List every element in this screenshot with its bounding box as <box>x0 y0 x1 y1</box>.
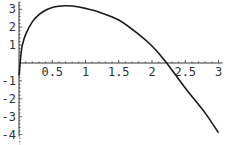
x-tick-label: 2 <box>148 65 155 79</box>
y-tick-label: 1 <box>9 38 16 52</box>
tick-labels: 0.511.522.53321-1-2-3-4 <box>2 2 223 141</box>
y-tick-label: 3 <box>9 2 16 16</box>
y-tick-label: -4 <box>2 128 16 142</box>
plot-area: 0.511.522.53321-1-2-3-4 <box>0 0 227 145</box>
y-tick-label: -1 <box>2 74 16 88</box>
x-tick-label: 3 <box>215 65 222 79</box>
x-tick-label: 1 <box>82 65 89 79</box>
x-tick-label: 0.5 <box>41 65 63 79</box>
y-tick-label: 2 <box>9 20 16 34</box>
y-tick-label: -2 <box>2 92 16 106</box>
y-tick-label: -3 <box>2 110 16 124</box>
x-tick-label: 1.5 <box>108 65 130 79</box>
